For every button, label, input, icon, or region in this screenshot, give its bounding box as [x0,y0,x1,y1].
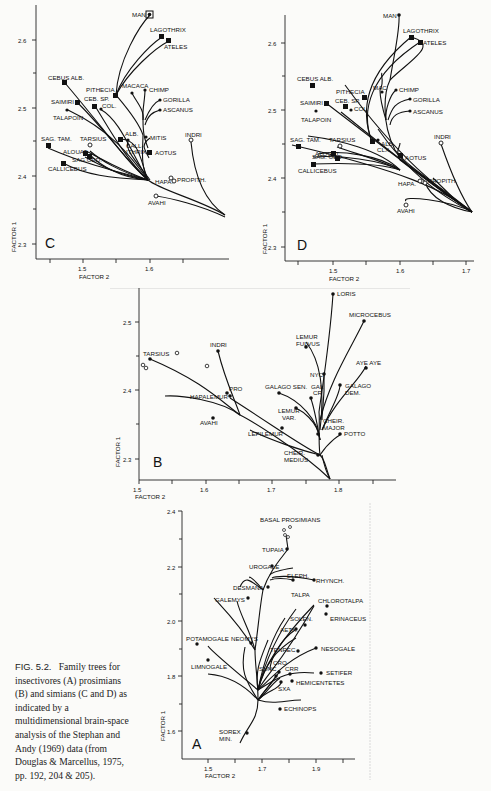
label-hapalemur: HAPALEMUR [190,393,229,400]
label-tenrec: TENREC [270,646,296,653]
label-sorex: SOREX [219,728,241,735]
panel-b-xtick: 1.6 [200,487,209,493]
label-indri: INDRI [210,341,227,348]
label-saimiri: SAIMIRI [300,99,323,106]
label-pro: PRO [229,385,243,392]
label-erinaceus: ERINACEUS [330,615,366,622]
panel-d-ytick: 2.4 [268,176,277,182]
panel-b-top-rule [110,288,410,289]
panel-b-yticks [135,322,139,459]
label-ateles: ATELES [164,43,187,50]
label-sag-oed: SAG. OED. [312,153,344,160]
panel-c-ytick: 2.5 [18,106,27,112]
panel-a-ytick: 2.2 [167,565,176,571]
label-chimp: CHIMP [399,86,419,93]
label-hemicentetes: HEMICENTETES [296,679,344,686]
panel-b-xtick: 1.7 [267,487,276,493]
panel-a-ytick: 2.0 [167,619,176,625]
panel-b-ytick: 2.5 [123,320,132,326]
label-gorilla: GORILLA [163,96,191,103]
panel-b-branches [150,294,366,479]
panel-d: 2.6 2.5 2.4 2.3 1.5 1.6 1.7 FACTOR 2 FAC… [261,12,474,282]
label-propith: PROPITH. [428,177,458,184]
panel-d-ytick: 2.6 [268,41,277,47]
label-lemur-var: LEMUR [278,407,300,414]
label-sorex-min: MIN. [219,735,232,742]
panel-c-ytick: 2.6 [18,38,27,44]
label-hapa: HAPA. [155,178,173,185]
panel-a: 2.4 2.2 2.0 1.8 1.6 1.5 1.7 1.9 FACTOR 2… [159,503,370,780]
label-potamogale: POTAMOGALE [186,635,229,642]
label-rhynch: RHYNCH. [316,577,344,584]
panel-b-xtick: 1.8 [334,487,343,493]
panel-d-xtick: 1.5 [329,268,338,274]
label-gorilla: GORILLA [413,96,441,103]
label-nesogale: NESOGALE [321,645,355,652]
label-aeth: AETH. [280,626,299,633]
panel-c-xticks [50,259,183,263]
panel-c: 2.6 2.5 2.4 2.3 1.5 1.6 FACTOR 2 FACTOR … [10,5,229,280]
label-var: VAR. [282,414,296,421]
label-medius: MEDIUS [284,456,308,463]
label-aye-aye: AYE AYE [356,359,381,366]
panel-d-xtick: 1.6 [396,268,405,274]
label-galemys: GALEMYS [215,596,245,603]
label-aotus: AOTUS [155,149,176,156]
panel-b-ylabel: FACTOR 1 [114,436,121,467]
label-urogale: UROGALE [249,563,279,570]
label-col: COL. [102,102,117,109]
panel-c-ylabel: FACTOR 1 [10,221,17,252]
label-crr: CRR [285,665,299,672]
label-mac: MAC [373,84,387,91]
label-talapoin: TALAPOIN [301,116,331,123]
label-major: MAJOR [323,424,345,431]
label-alb: ALB. [125,130,139,137]
label-cebus-alb: CEBUS ALB. [48,74,84,81]
panel-d-xlabel: FACTOR 2 [329,275,360,282]
label-ascanus: ASCANUS [163,106,193,113]
label-tarsius: TARSIUS [80,135,106,142]
label-callicebus: CALLICEBUS [48,165,87,172]
label-echinops: ECHINOPS [284,705,316,712]
label-sag-tam: SAG. TAM. [41,135,72,142]
label-chlorotalpa: CHLOROTALPA [318,597,364,604]
label-col: COL. [354,105,369,112]
label-galago-sen: GALAGO SEN. [265,383,308,390]
label-fulvus: FULVUS [296,340,320,347]
caption-text: Family trees for insectivores (A) prosim… [15,661,129,781]
label-ateles: ATELES [423,39,446,46]
label-talpa: TALPA [291,591,311,598]
label-saimiri: SAIMIRI [51,98,74,105]
panel-d-ytick: 2.5 [268,108,277,114]
label-eleph: ELEPH. [287,572,309,579]
panel-a-markers [195,526,328,735]
label-alouat: ALOUAT. [63,148,89,155]
panel-d-xtick: 1.7 [462,268,471,274]
label-sunc: SUNC [259,665,277,672]
label-avahi: AVAHI [397,207,415,214]
label-aotus: AOTUS [405,154,426,161]
label-ceb-sp: CEB. SP. [335,97,361,104]
label-microcebus: MICROCEBUS [349,311,391,318]
panel-d-xticks [298,261,466,265]
label-chimp: CHIMP [149,86,169,93]
label-loris: LORIS [337,290,356,297]
label-limnogale: LIMNOGALE [191,663,227,670]
panel-b-xticks [139,480,373,484]
label-ithrix: ITHRIX [126,148,146,155]
panel-c-yticks [32,40,36,244]
label-indri: INDRI [185,131,202,138]
label-neomys: NEOMYS [231,635,258,642]
label-sxa: SXA [278,685,291,692]
panel-c-xtick: 1.6 [145,266,154,272]
label-propith: PROPITH. [177,176,207,183]
label-lagothrix: LAGOTHRIX [150,26,186,33]
panel-c-xtick: 1.5 [78,266,87,272]
label-hapa: HAPA. [398,180,416,187]
label-pithecia: PITHECIA [86,86,115,93]
panel-a-ytick: 2.4 [167,509,176,515]
label-talapoin: TALAPOIN [53,114,83,121]
label-lepilemur: LEPILEMUR [248,430,284,437]
panel-d-ytick: 2.3 [268,245,277,251]
label-cebus-alb: CEBUS ALB. [297,75,333,82]
